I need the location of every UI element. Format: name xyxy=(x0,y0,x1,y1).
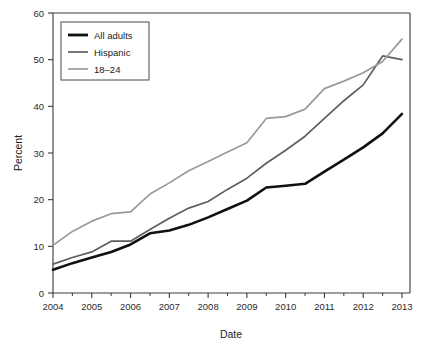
x-tick-label: 2010 xyxy=(275,301,296,312)
legend-label: 18–24 xyxy=(94,64,120,75)
x-tick-label: 2013 xyxy=(391,301,412,312)
x-axis-title: Date xyxy=(220,328,242,340)
x-tick-label: 2005 xyxy=(81,301,102,312)
y-tick-label: 0 xyxy=(39,288,44,299)
y-tick-label: 40 xyxy=(33,101,44,112)
y-tick-label: 60 xyxy=(33,8,44,19)
x-tick-label: 2004 xyxy=(42,301,63,312)
chart-container: 0102030405060 20042005200620072008200920… xyxy=(0,0,429,349)
y-tick-label: 20 xyxy=(33,194,44,205)
x-tick-label: 2008 xyxy=(198,301,219,312)
legend-label: All adults xyxy=(94,30,133,41)
line-chart: 0102030405060 20042005200620072008200920… xyxy=(0,0,429,349)
x-tick-label: 2009 xyxy=(236,301,257,312)
legend-label: Hispanic xyxy=(94,47,131,58)
y-tick-label: 30 xyxy=(33,148,44,159)
x-tick-label: 2006 xyxy=(120,301,141,312)
chart-legend: All adultsHispanic18–24 xyxy=(61,22,149,80)
y-tick-label: 10 xyxy=(33,241,44,252)
y-tick-label: 50 xyxy=(33,54,44,65)
x-tick-label: 2007 xyxy=(159,301,180,312)
y-axis-title: Percent xyxy=(12,135,24,171)
x-tick-label: 2012 xyxy=(353,301,374,312)
x-tick-label: 2011 xyxy=(314,301,334,312)
